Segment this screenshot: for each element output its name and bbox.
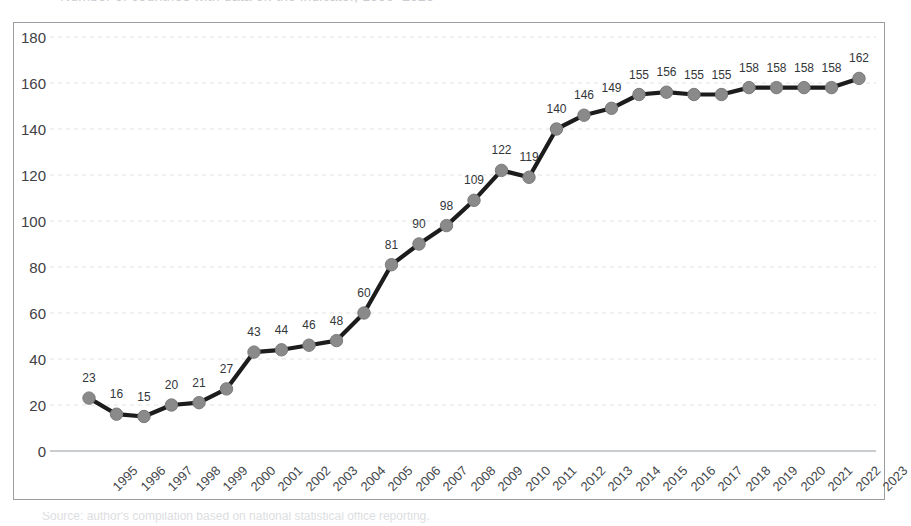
data-point-marker[interactable] bbox=[220, 383, 232, 395]
y-axis-tick-label: 140 bbox=[0, 121, 46, 138]
data-point-marker[interactable] bbox=[110, 408, 122, 420]
data-point-value-label: 158 bbox=[794, 61, 814, 75]
data-point-value-label: 156 bbox=[656, 65, 676, 79]
chart-title-text: Number of countries with data on the ind… bbox=[60, 0, 434, 4]
y-axis-tick-label: 80 bbox=[0, 259, 46, 276]
data-point-value-label: 60 bbox=[357, 286, 370, 300]
data-point-marker[interactable] bbox=[825, 81, 837, 93]
data-point-value-label: 155 bbox=[629, 68, 649, 82]
data-point-value-label: 155 bbox=[711, 68, 731, 82]
data-point-marker[interactable] bbox=[248, 346, 260, 358]
y-axis-tick-label: 0 bbox=[0, 443, 46, 460]
data-point-value-label: 155 bbox=[684, 68, 704, 82]
data-point-value-label: 90 bbox=[412, 217, 425, 231]
data-point-value-label: 46 bbox=[302, 318, 315, 332]
data-point-marker[interactable] bbox=[523, 171, 535, 183]
data-point-marker[interactable] bbox=[440, 219, 452, 231]
chart-caption-text: Source: author's compilation based on na… bbox=[42, 512, 430, 523]
data-point-marker[interactable] bbox=[193, 397, 205, 409]
data-point-marker[interactable] bbox=[330, 334, 342, 346]
data-point-value-label: 162 bbox=[849, 51, 869, 65]
chart-canvas bbox=[14, 23, 884, 499]
data-point-marker[interactable] bbox=[578, 109, 590, 121]
data-point-marker[interactable] bbox=[385, 259, 397, 271]
series-markers-group bbox=[83, 72, 865, 423]
data-point-value-label: 158 bbox=[766, 61, 786, 75]
data-point-value-label: 27 bbox=[220, 362, 233, 376]
data-point-value-label: 16 bbox=[110, 387, 123, 401]
chart-title-clipped: Number of countries with data on the ind… bbox=[0, 0, 900, 10]
data-point-value-label: 43 bbox=[247, 325, 260, 339]
data-point-value-label: 158 bbox=[821, 61, 841, 75]
data-point-marker[interactable] bbox=[688, 88, 700, 100]
chart-caption-clipped: Source: author's compilation based on na… bbox=[0, 512, 900, 526]
data-point-marker[interactable] bbox=[715, 88, 727, 100]
data-point-marker[interactable] bbox=[275, 344, 287, 356]
data-point-value-label: 122 bbox=[491, 143, 511, 157]
data-point-value-label: 21 bbox=[192, 376, 205, 390]
data-point-value-label: 81 bbox=[385, 238, 398, 252]
data-point-value-label: 48 bbox=[330, 314, 343, 328]
y-axis-tick-label: 20 bbox=[0, 397, 46, 414]
data-point-value-label: 98 bbox=[440, 199, 453, 213]
data-point-marker[interactable] bbox=[770, 81, 782, 93]
y-axis-tick-label: 40 bbox=[0, 351, 46, 368]
data-point-marker[interactable] bbox=[358, 307, 370, 319]
data-point-marker[interactable] bbox=[633, 88, 645, 100]
y-axis-tick-label: 160 bbox=[0, 75, 46, 92]
data-point-marker[interactable] bbox=[798, 81, 810, 93]
data-point-marker[interactable] bbox=[550, 123, 562, 135]
data-point-marker[interactable] bbox=[165, 399, 177, 411]
data-point-marker[interactable] bbox=[413, 238, 425, 250]
data-point-marker[interactable] bbox=[468, 194, 480, 206]
data-point-value-label: 15 bbox=[137, 390, 150, 404]
x-axis-tick-label: 2023 bbox=[879, 463, 910, 494]
data-point-value-label: 158 bbox=[739, 61, 759, 75]
data-point-marker[interactable] bbox=[303, 339, 315, 351]
data-point-value-label: 146 bbox=[574, 88, 594, 102]
y-axis-tick-label: 120 bbox=[0, 167, 46, 184]
data-point-value-label: 140 bbox=[546, 102, 566, 116]
data-point-value-label: 44 bbox=[275, 323, 288, 337]
data-point-value-label: 109 bbox=[464, 173, 484, 187]
data-point-marker[interactable] bbox=[83, 392, 95, 404]
data-point-marker[interactable] bbox=[138, 410, 150, 422]
chart-plot-frame: 020406080100120140160180 199519961997199… bbox=[13, 22, 885, 500]
data-point-marker[interactable] bbox=[853, 72, 865, 84]
data-point-marker[interactable] bbox=[660, 86, 672, 98]
data-point-marker[interactable] bbox=[495, 164, 507, 176]
data-point-value-label: 20 bbox=[165, 378, 178, 392]
data-point-marker[interactable] bbox=[743, 81, 755, 93]
y-axis-tick-label: 100 bbox=[0, 213, 46, 230]
data-point-value-label: 23 bbox=[82, 371, 95, 385]
data-point-value-label: 119 bbox=[519, 150, 538, 164]
y-axis-tick-label: 180 bbox=[0, 29, 46, 46]
data-point-marker[interactable] bbox=[605, 102, 617, 114]
y-axis-tick-label: 60 bbox=[0, 305, 46, 322]
data-point-value-label: 149 bbox=[601, 81, 621, 95]
